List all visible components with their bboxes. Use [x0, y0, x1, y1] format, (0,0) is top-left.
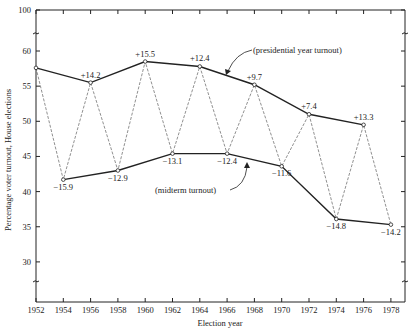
y-tick-label: 40 [23, 187, 32, 197]
x-tick-label: 1956 [82, 305, 99, 315]
axis-break-icon [33, 281, 39, 282]
data-point-marker [362, 123, 366, 127]
midterm-diff-label: −15.9 [53, 182, 73, 192]
x-tick-label: 1970 [273, 305, 290, 315]
axis-break-icon [402, 281, 408, 282]
series-layer [34, 60, 393, 227]
x-tick-label: 1952 [28, 305, 45, 315]
y-tick-label: 30 [23, 257, 32, 267]
data-point-marker [34, 66, 38, 70]
y-tick-label: 45 [23, 151, 32, 161]
annotation-arrow-icon [230, 167, 247, 190]
y-ticks: 10060555045403530 [18, 5, 405, 267]
annotation-presidential-label: (presidential year turnout) [253, 45, 342, 55]
presidential-diff-label: +14.2 [81, 70, 101, 80]
axis-break-icon [33, 33, 39, 34]
midterm-diff-label: −12.9 [108, 173, 128, 183]
midterm-diff-label: −11.6 [272, 168, 291, 178]
x-tick-label: 1974 [328, 305, 346, 315]
x-tick-label: 1978 [382, 305, 399, 315]
y-tick-label: 55 [23, 81, 32, 91]
arrowhead-icon [244, 162, 250, 168]
x-tick-label: 1976 [355, 305, 372, 315]
presidential-diff-label: +12.4 [190, 53, 210, 63]
zigzag-dashed-line [36, 62, 391, 225]
midterm-diff-label: −13.1 [163, 156, 183, 166]
data-point-marker [89, 81, 93, 85]
turnout-chart: 10060555045403530 1952195419561958196019… [0, 0, 412, 333]
arrowhead-icon [225, 69, 231, 75]
presidential-diff-label: +9.7 [247, 72, 262, 82]
y-tick-label: 35 [23, 222, 32, 232]
y-axis-title: Percentage voter turnout, House election… [3, 89, 13, 231]
presidential-diff-label: +7.4 [301, 101, 317, 111]
x-tick-label: 1968 [246, 305, 263, 315]
x-tick-label: 1958 [109, 305, 126, 315]
data-point-marker [198, 65, 202, 69]
midterm-diff-label: −12.4 [217, 156, 237, 166]
x-tick-label: 1960 [137, 305, 154, 315]
x-tick-label: 1954 [55, 305, 73, 315]
x-tick-label: 1964 [191, 305, 209, 315]
y-tick-label: 50 [23, 116, 32, 126]
annotation-midterm-label: (midterm turnout) [155, 185, 216, 195]
annotation-arrow-icon [228, 50, 252, 71]
data-point-marker [143, 60, 147, 64]
annotation-presidential: (presidential year turnout) [225, 45, 342, 75]
x-ticks: 1952195419561958196019621964196619681970… [28, 10, 400, 315]
x-axis-title: Election year [197, 318, 242, 328]
presidential-diff-label: +15.5 [135, 49, 155, 59]
axis-break-icon [402, 33, 408, 34]
x-tick-label: 1972 [301, 305, 318, 315]
y-tick-label: 100 [18, 5, 31, 15]
data-point-marker [307, 112, 311, 116]
midterm-diff-label: −14.8 [326, 221, 346, 231]
annotation-midterm: (midterm turnout) [155, 162, 250, 195]
data-point-marker [253, 83, 257, 87]
x-tick-label: 1962 [164, 305, 181, 315]
x-tick-label: 1966 [219, 305, 236, 315]
midterm-diff-label: −14.2 [381, 227, 401, 237]
y-tick-label: 60 [23, 46, 32, 56]
presidential-diff-label: +13.3 [354, 112, 374, 122]
